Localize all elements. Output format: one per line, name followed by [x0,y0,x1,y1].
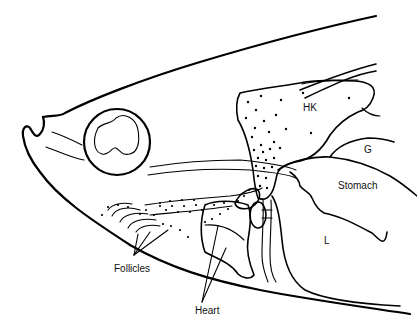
lateral-line-lower [148,169,296,178]
g-outline [330,138,394,157]
lateral-line-upper [150,160,296,170]
fish-anatomy-diagram: HK G Stomach L Follicles Heart [0,0,417,334]
hk-stipple-dots [245,92,350,189]
label-hk: HK [303,103,317,113]
diagram-canvas [0,0,417,334]
vessel-left [262,200,268,282]
vessel-right [270,200,276,282]
label-heart: Heart [195,306,219,316]
follicle-loop-1 [112,208,140,216]
eye-outer [84,109,150,175]
eye-inner [95,116,139,155]
liver-outline [272,196,400,306]
label-stomach: Stomach [338,181,377,191]
heart-division [205,225,244,240]
heart-pointer-1 [202,226,218,302]
back-line-1 [300,64,376,90]
jaw-line [46,147,84,160]
mouth-line [52,132,82,145]
label-l: L [324,236,330,246]
dorsal-outline [43,16,376,117]
follicle-loop-4 [136,225,160,232]
follicles-pointer-3 [134,230,168,255]
snout-outline [23,117,410,314]
follicle-loop-2 [120,213,148,222]
label-follicles: Follicles [114,264,150,274]
label-g: G [364,145,372,155]
